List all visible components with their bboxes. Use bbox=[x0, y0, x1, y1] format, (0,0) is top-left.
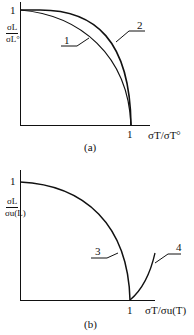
diagram-a-x-tick: 1 bbox=[127, 129, 133, 140]
diagram-b-caption: (b) bbox=[84, 319, 97, 330]
curve-2-label: 2 bbox=[137, 20, 143, 31]
diagram-b-y-tick: 1 bbox=[10, 176, 16, 187]
curve-4 bbox=[130, 253, 155, 300]
diagram-canvas bbox=[0, 0, 194, 335]
diagram-b-x-label: σT/σu(T) bbox=[145, 305, 186, 316]
diagram-b-y-label-denominator: σu(L) bbox=[5, 208, 26, 219]
diagram-a-x-label: σT/σT° bbox=[148, 130, 181, 141]
diagram-b-axes bbox=[20, 170, 155, 301]
diagram-a-caption: (a) bbox=[84, 142, 96, 153]
leader-line-2 bbox=[116, 31, 145, 42]
curve-4-label: 4 bbox=[176, 242, 182, 253]
curve-3-label: 3 bbox=[95, 246, 101, 257]
curve-1-label: 1 bbox=[64, 35, 70, 46]
curve-3 bbox=[20, 182, 130, 300]
diagram-b-x-tick: 1 bbox=[127, 305, 133, 316]
leader-line-4 bbox=[155, 254, 181, 263]
diagram-a-y-label-numerator: σL bbox=[6, 22, 18, 34]
diagram-a-y-label-denominator: σL° bbox=[6, 34, 20, 45]
curve-1 bbox=[20, 10, 131, 125]
diagram-a-y-tick: 1 bbox=[10, 5, 16, 16]
diagram-b-y-label-numerator: σL bbox=[6, 196, 18, 208]
